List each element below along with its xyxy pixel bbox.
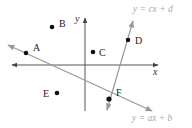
coordinate-diagram: x y y = ax + b y = cx + d A B C D E F [0,0,192,128]
point-f-label: F [116,87,122,98]
point-d-label: D [135,35,142,46]
point-f [106,96,111,101]
point-a [24,51,29,56]
point-a-label: A [33,42,41,53]
point-c-label: C [99,47,106,58]
point-e [55,91,60,96]
point-e-label: E [43,88,49,99]
x-axis-label: x [152,66,158,77]
point-b-label: B [59,18,66,29]
point-d [126,38,131,43]
point-c [91,50,96,55]
line-ax-plus-b [8,45,152,111]
equation-label-ax-plus-b: y = ax + b [131,113,173,123]
point-b [50,25,55,30]
y-axis-label: y [74,13,80,24]
equation-label-cx-plus-d: y = cx + d [132,4,173,14]
